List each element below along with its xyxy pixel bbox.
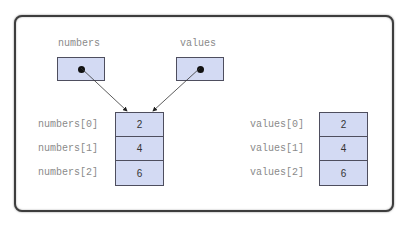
index-label: values[1]: [250, 143, 304, 154]
pointer-dot-icon: [197, 66, 204, 73]
ref-label-values: values: [180, 38, 216, 49]
array-cell: 6: [116, 161, 163, 185]
index-label: numbers[1]: [38, 143, 98, 154]
array-cell: 6: [320, 161, 367, 185]
index-label: numbers[2]: [38, 167, 98, 178]
array-cell: 4: [320, 137, 367, 161]
index-label: values[0]: [250, 119, 304, 130]
array-cell: 2: [320, 113, 367, 137]
index-label: numbers[0]: [38, 119, 98, 130]
array-cell: 2: [116, 113, 163, 137]
ref-box-numbers: [57, 57, 105, 81]
ref-label-numbers: numbers: [58, 38, 100, 49]
array-cell: 4: [116, 137, 163, 161]
array-numbers: 2 4 6: [115, 112, 164, 186]
pointer-dot-icon: [78, 66, 85, 73]
ref-box-values: [176, 57, 224, 81]
array-values: 2 4 6: [319, 112, 368, 186]
index-label: values[2]: [250, 167, 304, 178]
